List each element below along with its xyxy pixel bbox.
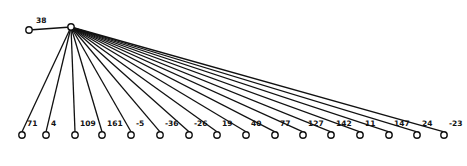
edge-label: 19	[222, 119, 232, 128]
left-child-node	[26, 27, 32, 33]
edge-label: -5	[136, 119, 144, 128]
edge-leaf	[71, 27, 189, 132]
edge-label: 109	[80, 119, 96, 128]
leaf-node	[157, 132, 163, 138]
edge-leaf	[71, 27, 217, 132]
tree-edges	[22, 27, 444, 132]
leaf-node	[414, 132, 420, 138]
edge-label: -36	[165, 119, 179, 128]
edge-leaf	[71, 27, 303, 132]
edge-leaf	[71, 27, 444, 132]
leaf-node	[72, 132, 78, 138]
leaf-node	[272, 132, 278, 138]
edge-label: 38	[36, 16, 46, 25]
edge-label: 71	[27, 119, 37, 128]
edge-label: 4	[51, 119, 56, 128]
leaf-node	[186, 132, 192, 138]
leaf-node	[328, 132, 334, 138]
leaf-node	[43, 132, 49, 138]
edge-label: 142	[336, 119, 352, 128]
leaf-node	[441, 132, 447, 138]
leaf-node	[99, 132, 105, 138]
edge-label: 40	[251, 119, 261, 128]
leaf-node	[19, 132, 25, 138]
leaf-node	[357, 132, 363, 138]
leaf-node	[300, 132, 306, 138]
edge-label: -26	[194, 119, 208, 128]
edge-label: 127	[308, 119, 324, 128]
tree-diagram: 38714109161-5-36-261940771271421114724-2…	[0, 0, 467, 166]
edge-left-child	[29, 27, 71, 30]
edge-label: 147	[394, 119, 410, 128]
leaf-node	[386, 132, 392, 138]
leaf-node	[214, 132, 220, 138]
edge-leaf	[71, 27, 75, 132]
edge-leaf	[71, 27, 360, 132]
edge-label: -23	[449, 119, 463, 128]
edge-leaf	[46, 27, 71, 132]
edge-leaf	[71, 27, 331, 132]
edge-label: 77	[280, 119, 290, 128]
root-node	[68, 24, 74, 30]
leaf-node	[243, 132, 249, 138]
edge-label: 161	[107, 119, 123, 128]
edge-label: 11	[365, 119, 375, 128]
leaf-node	[128, 132, 134, 138]
edge-leaf	[22, 27, 71, 132]
edge-leaf	[71, 27, 389, 132]
edge-label: 24	[422, 119, 432, 128]
